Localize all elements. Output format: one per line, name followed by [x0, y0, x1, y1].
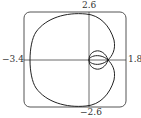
plot-frame	[24, 12, 126, 107]
x-max-label: 1.8	[128, 55, 141, 64]
y-min-label: −2.6	[80, 108, 102, 117]
crossing-point	[107, 59, 110, 62]
x-min-label: −3.4	[2, 55, 24, 64]
y-max-label: 2.6	[82, 1, 96, 10]
